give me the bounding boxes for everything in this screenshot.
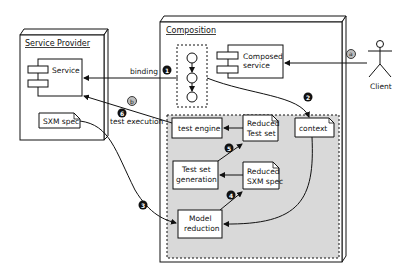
badge-6: 6 xyxy=(118,109,127,118)
badge-b: b xyxy=(128,97,137,106)
component-icon xyxy=(217,52,238,59)
reduced-sxm-spec-document: Reduced SXM spec xyxy=(243,162,283,189)
sxm-spec-label: SXM spec xyxy=(43,117,79,126)
composed-service-label-1: Composed xyxy=(243,52,283,61)
model-reduction-label-1: Model xyxy=(189,214,212,223)
composition-title: Composition xyxy=(166,26,216,35)
test-execution-label: test execution xyxy=(110,117,164,126)
svg-text:5: 5 xyxy=(227,145,231,152)
model-reduction-label-2: reduction xyxy=(184,224,220,233)
svg-text:6: 6 xyxy=(120,110,124,117)
badge-2: 2 xyxy=(304,93,313,102)
sxm-spec-document: SXM spec xyxy=(39,113,80,128)
client-actor xyxy=(368,41,392,78)
reduced-test-set-label-1: Reduced xyxy=(247,119,280,128)
context-label: context xyxy=(299,124,327,133)
badge-1: 1 xyxy=(163,66,172,75)
model-reduction-box: Model reduction xyxy=(178,210,222,238)
svg-text:1: 1 xyxy=(165,67,169,74)
workflow-state-icon xyxy=(187,53,197,63)
service-label: Service xyxy=(52,66,80,75)
architecture-diagram: Service Provider Service SXM spec Compos… xyxy=(0,0,409,276)
reduced-test-set-document: Reduced Test set xyxy=(243,115,280,141)
test-set-generation-label-2: generation xyxy=(176,175,217,184)
svg-text:3: 3 xyxy=(141,202,145,209)
actor-icon xyxy=(377,41,384,48)
reduced-sxm-spec-label-1: Reduced xyxy=(247,167,280,176)
service-provider-title: Service Provider xyxy=(25,39,91,48)
badge-5: 5 xyxy=(225,144,234,153)
badge-3: 3 xyxy=(139,201,148,210)
workflow-process xyxy=(177,45,207,107)
reduced-sxm-spec-label-2: SXM spec xyxy=(247,177,283,186)
svg-text:2: 2 xyxy=(306,94,310,101)
svg-text:a: a xyxy=(349,50,353,57)
binding-label: binding xyxy=(130,67,158,76)
svg-text:b: b xyxy=(130,98,134,105)
client-label: Client xyxy=(370,82,392,91)
test-set-generation-label-1: Test set xyxy=(181,165,211,174)
test-set-generation-box: Test set generation xyxy=(173,161,218,189)
badge-a: a xyxy=(347,50,356,59)
composed-service-label-2: service xyxy=(243,61,270,70)
component-icon xyxy=(28,66,48,73)
test-engine-box: test engine xyxy=(172,118,222,138)
test-engine-label: test engine xyxy=(178,124,221,133)
reduced-test-set-label-2: Test set xyxy=(246,129,276,138)
context-document: context xyxy=(295,118,334,137)
svg-text:4: 4 xyxy=(229,192,233,199)
badge-4: 4 xyxy=(227,191,236,200)
